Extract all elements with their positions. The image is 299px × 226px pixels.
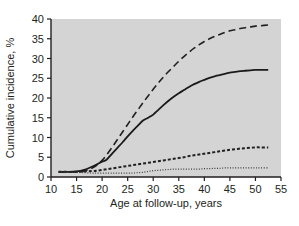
cumulative-incidence-chart: 0510152025303540 10152025303540455055 Cu…	[0, 0, 299, 226]
x-tick-label: 50	[249, 183, 261, 195]
y-tick-label: 30	[32, 53, 44, 65]
y-tick-label: 10	[32, 132, 44, 144]
plot-background-group	[51, 19, 281, 177]
y-axis-label: Cumulative incidence, %	[4, 38, 16, 159]
figure-container: 0510152025303540 10152025303540455055 Cu…	[0, 0, 299, 226]
x-tick-label: 25	[122, 183, 134, 195]
x-tick-label: 20	[96, 183, 108, 195]
x-tick-label: 55	[275, 183, 287, 195]
plot-area-background	[51, 19, 281, 177]
x-tick-label: 30	[147, 183, 159, 195]
y-tick-group: 0510152025303540	[32, 13, 51, 183]
x-tick-group: 10152025303540455055	[45, 177, 287, 195]
x-tick-label: 10	[45, 183, 57, 195]
y-tick-label: 40	[32, 13, 44, 25]
x-tick-label: 15	[70, 183, 82, 195]
y-tick-label: 5	[38, 151, 44, 163]
y-tick-label: 0	[38, 171, 44, 183]
x-tick-label: 45	[224, 183, 236, 195]
x-tick-label: 40	[198, 183, 210, 195]
y-tick-label: 35	[32, 33, 44, 45]
x-axis-label: Age at follow-up, years	[110, 197, 222, 209]
y-tick-label: 25	[32, 72, 44, 84]
y-tick-label: 15	[32, 112, 44, 124]
x-tick-label: 35	[173, 183, 185, 195]
y-tick-label: 20	[32, 92, 44, 104]
